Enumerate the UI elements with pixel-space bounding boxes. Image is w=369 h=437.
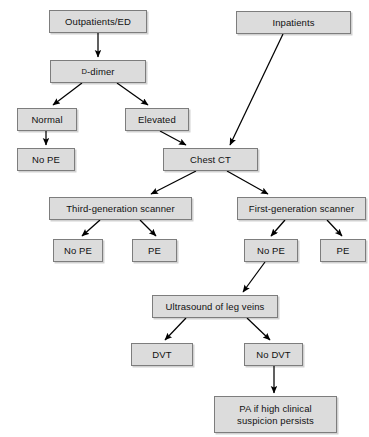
edge-first-generation-to-pe bbox=[327, 220, 342, 236]
node-normal[interactable]: Normal bbox=[17, 108, 77, 131]
node-third-no-pe[interactable]: No PE bbox=[53, 239, 103, 262]
node-first-no-pe[interactable]: No PE bbox=[244, 239, 298, 262]
edge-d-dimer-to-elevated bbox=[117, 83, 148, 105]
edge-first-no-pe-to-ultrasound bbox=[243, 262, 265, 292]
node-ultrasound-leg-veins[interactable]: Ultrasound of leg veins bbox=[152, 295, 278, 318]
edge-inpatients-to-chest-ct bbox=[230, 34, 283, 145]
node-chest-ct[interactable]: Chest CT bbox=[163, 148, 258, 171]
edge-third-generation-to-pe bbox=[140, 220, 156, 236]
flowchart-canvas: Outpatients/ED Inpatients D-dimer Normal… bbox=[0, 0, 369, 437]
node-pa-high-suspicion[interactable]: PA if high clinical suspicion persists bbox=[214, 396, 337, 433]
edge-elevated-to-chest-ct bbox=[160, 131, 186, 145]
node-inpatients[interactable]: Inpatients bbox=[236, 11, 351, 34]
edge-chest-ct-to-third-generation-scanner bbox=[151, 171, 196, 194]
node-d-dimer[interactable]: D-dimer bbox=[50, 60, 146, 83]
node-dvt[interactable]: DVT bbox=[131, 343, 193, 366]
node-elevated[interactable]: Elevated bbox=[125, 108, 189, 131]
edge-d-dimer-to-normal bbox=[53, 83, 82, 105]
node-no-pe-left[interactable]: No PE bbox=[17, 148, 75, 171]
edge-third-generation-to-no-pe bbox=[82, 220, 100, 236]
node-third-pe[interactable]: PE bbox=[132, 239, 177, 262]
edge-ultrasound-to-dvt bbox=[165, 318, 186, 340]
edge-first-generation-to-no-pe bbox=[271, 220, 285, 236]
node-no-dvt[interactable]: No DVT bbox=[244, 343, 303, 366]
d-dimer-suffix: -dimer bbox=[87, 66, 115, 77]
edge-chest-ct-to-first-generation-scanner bbox=[227, 171, 268, 194]
node-third-generation-scanner[interactable]: Third-generation scanner bbox=[49, 197, 192, 220]
node-first-generation-scanner[interactable]: First-generation scanner bbox=[237, 197, 366, 220]
node-first-pe[interactable]: PE bbox=[320, 239, 366, 262]
node-outpatients-ed[interactable]: Outpatients/ED bbox=[49, 10, 147, 33]
edge-ultrasound-to-no-dvt bbox=[247, 318, 270, 340]
